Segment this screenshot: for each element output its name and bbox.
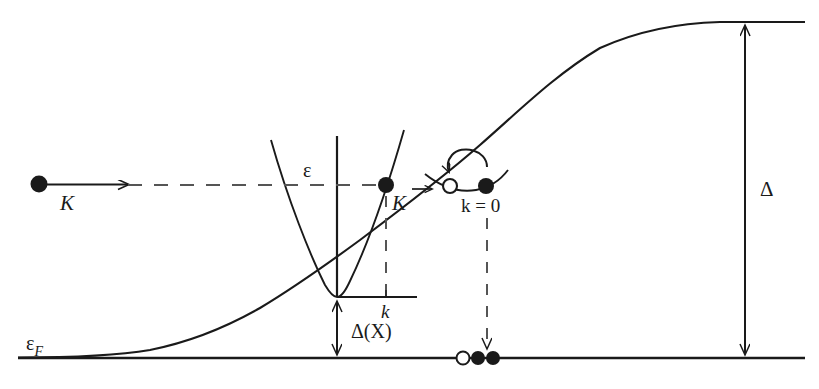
- epsilon-label: ε: [303, 159, 311, 181]
- fermi-electron-dot-2: [486, 351, 500, 365]
- sigmoid-band-curve: [18, 22, 805, 358]
- band-diagram-figure: k K ε K k = 0 Δ(X): [0, 0, 819, 389]
- scattered-k-label: K: [391, 191, 407, 215]
- recombination-curved-arrow: [448, 149, 487, 172]
- fermi-energy-label: εF: [26, 332, 43, 359]
- k-zero-label: k = 0: [461, 195, 500, 216]
- exciton-electron-dot: [478, 178, 494, 194]
- fermi-hole-open-circle: [457, 352, 470, 365]
- hole-open-circle: [443, 179, 457, 193]
- delta-label: Δ: [760, 177, 774, 201]
- incident-electron-dot: [31, 176, 48, 193]
- incident-k-label: K: [59, 191, 75, 215]
- fermi-electron-dot-1: [471, 351, 485, 365]
- k-axis-label: k: [381, 301, 390, 322]
- band-diagram-canvas: k K ε K k = 0 Δ(X): [0, 0, 819, 389]
- delta-x-label: Δ(X): [351, 320, 392, 343]
